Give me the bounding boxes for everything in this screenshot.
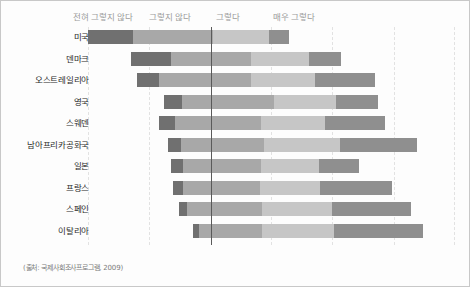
- bar-segment-그렇지 않다: [183, 159, 261, 173]
- bar-segment-매우 그렇다: [269, 30, 289, 44]
- chart-row: 프랑스: [1, 178, 470, 198]
- row-label-2: 오스트레일리아: [35, 70, 89, 90]
- legend-item-1: 그렇지 않다: [149, 10, 191, 24]
- bar-segment-그렇다: [251, 52, 309, 66]
- bar-segment-전혀 그렇지 않다: [173, 181, 183, 195]
- stacked-bar: [179, 202, 411, 216]
- bar-segment-매우 그렇다: [309, 52, 341, 66]
- row-label-6: 일본: [74, 156, 89, 176]
- legend-item-0: 전혀 그렇지 않다: [73, 10, 133, 24]
- bar-segment-매우 그렇다: [325, 116, 385, 130]
- bar-segment-그렇다: [260, 181, 320, 195]
- bar-segment-그렇다: [261, 159, 319, 173]
- chart-row: 이탈리아: [1, 221, 470, 241]
- plot-area: 미국덴마크오스트레일리아영국스웨덴남아프리카공화국일본프랑스스페인이탈리아: [1, 27, 470, 249]
- zero-axis-line: [211, 27, 212, 245]
- source-note: (출처: 국제사회조사프로그램, 2009): [23, 262, 123, 272]
- bar-segment-매우 그렇다: [332, 202, 411, 216]
- stacked-bar: [171, 159, 359, 173]
- bar-segment-매우 그렇다: [340, 138, 417, 152]
- bar-segment-그렇다: [261, 116, 325, 130]
- chart-row: 덴마크: [1, 49, 470, 69]
- bar-segment-전혀 그렇지 않다: [168, 138, 181, 152]
- chart-row: 영국: [1, 92, 470, 112]
- bar-segment-매우 그렇다: [315, 73, 375, 87]
- legend-item-2: 그렇다: [216, 10, 239, 24]
- row-label-8: 스페인: [66, 199, 89, 219]
- stacked-bar: [159, 116, 385, 130]
- bar-segment-그렇지 않다: [159, 73, 251, 87]
- bar-segment-전혀 그렇지 않다: [159, 116, 175, 130]
- legend-item-3: 매우 그렇다: [273, 10, 315, 24]
- chart-row: 일본: [1, 156, 470, 176]
- stacked-bar: [137, 73, 375, 87]
- chart-row: 남아프리카공화국: [1, 135, 470, 155]
- chart-row: 오스트레일리아: [1, 70, 470, 90]
- chart-legend: 전혀 그렇지 않다그렇지 않다그렇다매우 그렇다: [1, 10, 470, 24]
- stacked-bar: [164, 95, 378, 109]
- row-label-7: 프랑스: [66, 178, 89, 198]
- bar-segment-그렇다: [264, 138, 340, 152]
- bar-segment-전혀 그렇지 않다: [88, 30, 133, 44]
- bar-segment-그렇지 않다: [183, 181, 260, 195]
- stacked-bar: [168, 138, 417, 152]
- bar-segment-그렇지 않다: [133, 30, 213, 44]
- bar-segment-전혀 그렇지 않다: [171, 159, 183, 173]
- row-label-3: 영국: [74, 92, 89, 112]
- bar-segment-그렇다: [274, 95, 336, 109]
- chart-row: 스페인: [1, 199, 470, 219]
- bar-segment-전혀 그렇지 않다: [131, 52, 171, 66]
- bar-segment-전혀 그렇지 않다: [164, 95, 182, 109]
- bar-segment-그렇지 않다: [175, 116, 261, 130]
- row-label-4: 스웨덴: [66, 113, 89, 133]
- bar-segment-그렇지 않다: [187, 202, 262, 216]
- stacked-bar: [173, 181, 392, 195]
- bar-segment-매우 그렇다: [320, 181, 392, 195]
- stacked-bar: [131, 52, 341, 66]
- chart-row: 미국: [1, 27, 470, 47]
- chart-frame: 전혀 그렇지 않다그렇지 않다그렇다매우 그렇다 미국덴마크오스트레일리아영국스…: [0, 0, 470, 287]
- row-label-5: 남아프리카공화국: [27, 135, 89, 155]
- stacked-bar: [88, 30, 289, 44]
- bar-segment-매우 그렇다: [336, 95, 378, 109]
- bar-segment-그렇다: [251, 73, 315, 87]
- stacked-bar: [193, 224, 423, 238]
- bar-segment-매우 그렇다: [334, 224, 423, 238]
- row-label-0: 미국: [74, 27, 89, 47]
- bar-segment-그렇다: [213, 30, 269, 44]
- bar-segment-매우 그렇다: [319, 159, 359, 173]
- bar-segment-그렇다: [262, 224, 334, 238]
- chart-row: 스웨덴: [1, 113, 470, 133]
- bar-segment-그렇지 않다: [182, 95, 274, 109]
- bar-segment-전혀 그렇지 않다: [137, 73, 159, 87]
- bar-segment-그렇지 않다: [199, 224, 262, 238]
- row-label-9: 이탈리아: [58, 221, 89, 241]
- bar-segment-전혀 그렇지 않다: [179, 202, 187, 216]
- bar-segment-그렇지 않다: [181, 138, 264, 152]
- bar-segment-그렇다: [262, 202, 332, 216]
- row-label-1: 덴마크: [66, 49, 89, 69]
